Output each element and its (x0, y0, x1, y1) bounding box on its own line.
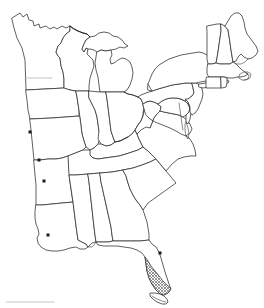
marker-arkansas (43, 180, 46, 183)
marker-louisiana (47, 234, 50, 237)
marker-iowa (29, 131, 32, 134)
state-iowa (26, 88, 79, 119)
state-rhode-island (221, 77, 227, 88)
map-container (0, 0, 264, 308)
state-connecticut (206, 77, 221, 88)
state-michigan-lower (95, 50, 133, 92)
state-arkansas (34, 156, 73, 205)
state-massachusetts (207, 62, 248, 78)
marker-florida (159, 252, 162, 255)
eastern-us-map (0, 0, 264, 308)
marker-missouri (38, 159, 41, 162)
